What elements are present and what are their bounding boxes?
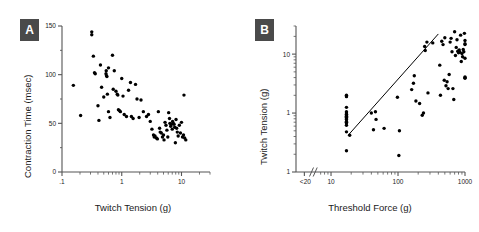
panel-a: A 050100150.1110 Twitch Tension (g) Cont… (0, 0, 239, 232)
panel-a-plot: 050100150.1110 (0, 0, 239, 232)
svg-text:1: 1 (286, 168, 290, 175)
svg-text:100: 100 (393, 178, 404, 185)
svg-text:50: 50 (49, 120, 57, 127)
svg-text:100: 100 (45, 71, 56, 78)
panel-b-x-axis-title: Threshold Force (g) (290, 202, 450, 213)
svg-text:10: 10 (178, 178, 186, 185)
panel-b-plot: 1110<20101001000 (240, 0, 479, 232)
panel-b-y-axis-title: Twitch Tension (g) (258, 89, 269, 165)
svg-text:1: 1 (120, 178, 124, 185)
svg-text:<20: <20 (300, 178, 311, 185)
svg-text:150: 150 (45, 22, 56, 29)
svg-text:1: 1 (286, 109, 290, 116)
panel-a-x-axis-title: Twitch Tension (g) (58, 202, 208, 213)
svg-text:0: 0 (52, 168, 56, 175)
svg-text:10: 10 (327, 178, 335, 185)
svg-text:10: 10 (283, 51, 291, 58)
panel-a-y-axis-title: Contraction Time (msec) (22, 75, 33, 178)
figure-container: A 050100150.1110 Twitch Tension (g) Cont… (0, 0, 479, 232)
svg-text:.1: .1 (59, 178, 65, 185)
panel-b: B 1110<20101001000 Threshold Force (g) T… (240, 0, 479, 232)
svg-text:1000: 1000 (458, 178, 473, 185)
